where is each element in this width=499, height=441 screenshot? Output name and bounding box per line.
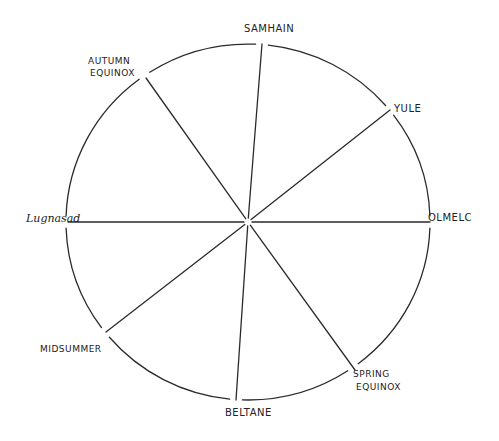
label-spring-equinox-line2: EQUINOX	[356, 383, 401, 392]
label-autumn-equinox-line2: EQUINOX	[90, 69, 135, 78]
spoke-midsummer	[106, 224, 245, 332]
wheel-arc	[268, 45, 385, 105]
label-spring-equinox: SPRING EQUINOX	[353, 370, 401, 392]
label-lugnasad: Lugnasad	[26, 213, 80, 224]
label-yule: YULE	[394, 104, 421, 114]
spoke-yule	[251, 110, 390, 220]
label-olmelc: OLMELC	[428, 213, 472, 223]
label-autumn-equinox-line1: AUTUMN	[88, 57, 135, 66]
label-autumn-equinox: AUTUMN EQUINOX	[88, 57, 135, 78]
wheel-arc	[109, 337, 229, 399]
wheel-arc	[66, 228, 101, 327]
wheel-arc	[242, 371, 347, 400]
wheel-spokes	[68, 44, 430, 400]
label-samhain: SAMHAIN	[244, 24, 294, 34]
wheel-arc	[358, 228, 430, 364]
spoke-autumn-equinox	[146, 78, 246, 219]
label-beltane: BELTANE	[225, 408, 272, 418]
spoke-samhain	[248, 44, 262, 218]
spoke-beltane	[236, 226, 248, 400]
spoke-spring-equinox	[250, 225, 355, 370]
wheel-arc	[394, 115, 430, 216]
wheel-arc	[66, 79, 139, 216]
label-spring-equinox-line1: SPRING	[353, 370, 401, 379]
wheel-arc	[150, 44, 256, 72]
label-midsummer: MIDSUMMER	[40, 345, 102, 354]
